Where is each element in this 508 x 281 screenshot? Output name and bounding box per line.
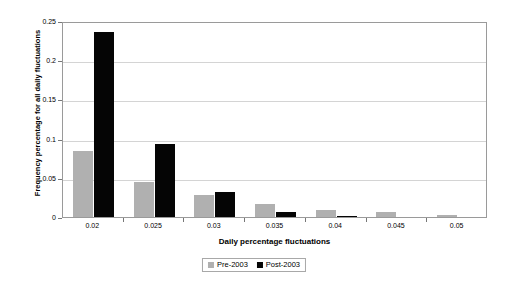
plot-area [62,22,487,218]
bar [255,204,275,217]
gridline [63,141,486,142]
legend-label: Post-2003 [266,260,300,269]
bar [134,182,154,217]
y-tick-label: 0.2 [10,57,56,65]
bar [94,32,114,217]
bar [276,212,296,217]
bar-chart: Frequency percentage for all daily fluct… [0,0,508,281]
bar [155,144,175,217]
x-tick-label: 0.03 [184,222,244,230]
x-tick-label: 0.025 [123,222,183,230]
x-tick-mark [123,218,124,222]
legend: Pre-2003 Post-2003 [202,258,306,272]
bar [194,195,214,217]
bar [337,216,357,217]
x-tick-label: 0.04 [305,222,365,230]
bar [316,210,336,217]
x-tick-mark [305,218,306,222]
x-tick-label: 0.05 [427,222,487,230]
x-tick-label: 0.045 [366,222,426,230]
gridline [63,101,486,102]
legend-swatch-icon [208,262,214,268]
y-tick-label: 0.1 [10,136,56,144]
x-tick-label: 0.02 [62,222,122,230]
gridline [63,62,486,63]
bar [73,151,93,217]
x-tick-label: 0.035 [245,222,305,230]
y-tick-label: 0.05 [10,175,56,183]
y-tick-label: 0.25 [10,18,56,26]
x-axis-title: Daily percentage fluctuations [62,237,487,246]
x-tick-mark [366,218,367,222]
y-tick-mark [58,218,62,219]
y-axis-title: Frequency percentage for all daily fluct… [33,13,43,213]
legend-item-pre-2003: Pre-2003 [208,260,248,269]
legend-item-post-2003: Post-2003 [257,260,300,269]
bar [215,192,235,217]
bar [376,212,396,217]
bar [437,215,457,217]
y-tick-label: 0 [10,214,56,222]
legend-label: Pre-2003 [217,260,248,269]
x-tick-mark [426,218,427,222]
x-tick-mark [244,218,245,222]
y-tick-label: 0.15 [10,96,56,104]
gridline [63,180,486,181]
x-tick-mark [183,218,184,222]
legend-swatch-icon [257,262,263,268]
